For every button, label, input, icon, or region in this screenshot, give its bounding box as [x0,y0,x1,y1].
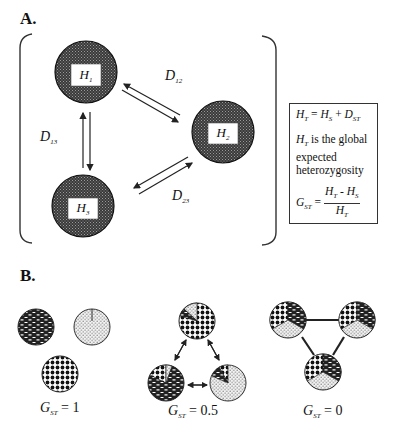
lines-gst0 [302,320,344,355]
node-h3-label: H3 [68,200,98,217]
pop-gst1-checker [42,356,78,392]
gst-label-05: GST = 0.5 [168,403,218,420]
node-h1-label: H1 [71,67,101,84]
pop-gst0-bottom [305,354,341,390]
pop-gst1-brick [18,309,54,345]
gst-fraction: HT - HSHT [324,185,360,222]
pop-gst0-right [339,302,375,338]
gst-label-1: GST = 1 [40,400,79,417]
pop-gst1-dots [74,309,110,345]
pop-gst05-left [148,365,184,401]
formula-ht: HT = HS + DST [296,108,371,126]
formula-box: HT = HS + DST HT is the global expected … [289,103,378,224]
pop-gst05-top [179,303,215,339]
panel-b-label: B. [20,266,36,286]
gst-label-0: GST = 0 [303,403,342,420]
d13-label: D13 [40,129,57,146]
panel-a-label: A. [20,9,37,29]
pop-gst05-right [210,365,246,401]
formula-gst: GST = HT - HSHT [296,185,371,222]
right-bracket [262,36,276,245]
arrows-h1-h2 [122,84,180,122]
d12-label: D12 [165,68,182,85]
arrows-h1-h3 [83,112,90,170]
left-bracket [20,34,32,243]
node-h2-label: H2 [208,125,238,142]
formula-description: HT is the global expected heterozygosity [296,133,371,177]
d23-label: D23 [172,188,189,205]
pop-gst0-left [270,302,306,338]
